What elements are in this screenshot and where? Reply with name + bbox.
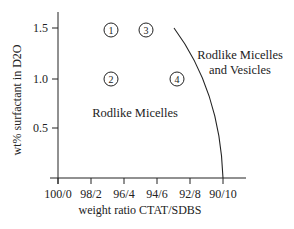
data-point-2: 2 (104, 72, 118, 86)
x-ticks: 100/0 98/2 96/4 94/6 92/8 90/10 (44, 178, 236, 201)
y-tick-label: 0.5 (33, 121, 48, 135)
x-tick-label: 94/6 (146, 187, 167, 201)
region-label-rodlike-micelles: Rodlike Micelles (92, 106, 178, 120)
region-label-micelles-vesicles-line1: Rodlike Micelles (197, 48, 283, 62)
y-axis-label: wt% surfactant in D2O (10, 44, 24, 155)
x-tick-label: 92/8 (179, 187, 200, 201)
x-tick-label: 98/2 (80, 187, 101, 201)
data-point-4: 4 (170, 72, 184, 86)
x-tick-label: 96/4 (113, 187, 134, 201)
data-point-1: 1 (104, 23, 118, 37)
region-label-micelles-vesicles-line2: and Vesicles (209, 63, 271, 77)
y-tick-label: 1.0 (33, 72, 48, 86)
x-axis-label: weight ratio CTAT/SDBS (78, 203, 201, 217)
svg-text:3: 3 (144, 25, 149, 36)
x-tick-label: 90/10 (209, 187, 236, 201)
phase-diagram-chart: 1.5 1.0 0.5 100/0 98/2 96/4 94/6 92/8 90… (0, 0, 294, 229)
svg-text:1: 1 (109, 25, 114, 36)
x-tick-label: 100/0 (44, 187, 71, 201)
y-tick-label: 1.5 (33, 21, 48, 35)
svg-text:2: 2 (109, 74, 114, 85)
data-point-3: 3 (139, 23, 153, 37)
y-ticks: 1.5 1.0 0.5 (33, 21, 58, 135)
svg-text:4: 4 (175, 74, 180, 85)
